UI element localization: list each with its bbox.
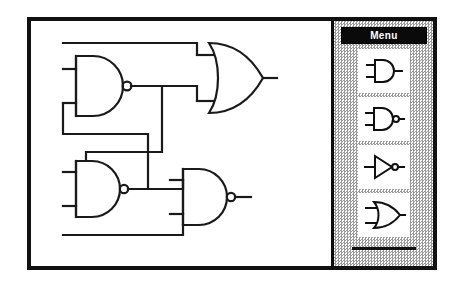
palette-item-and-gate[interactable] [358,49,410,93]
nand-gate-icon [359,99,409,139]
gate-nand-3 [170,169,251,225]
gate-or-1 [197,43,277,113]
gate-nand-2 [63,161,128,217]
palette-item-nand-gate[interactable] [358,97,410,141]
palette-item-or-gate[interactable] [358,193,410,237]
not-gate-icon [359,147,409,187]
palette-title: Menu [370,31,398,41]
palette-divider [352,247,416,250]
circuit-wires [63,43,197,235]
app-root: Menu [0,0,465,294]
palette-item-list [334,47,433,241]
palette-titlebar[interactable]: Menu [341,27,427,44]
gate-nand-1 [63,56,131,116]
and-gate-icon [359,51,409,91]
or-gate-icon [359,195,409,235]
circuit-schematic [31,21,331,266]
window-content: Menu [31,21,433,266]
gate-palette-panel[interactable]: Menu [331,21,433,266]
palette-item-not-gate[interactable] [358,145,410,189]
circuit-canvas[interactable] [31,21,331,266]
logic-gate-editor-window: Menu [27,17,437,270]
